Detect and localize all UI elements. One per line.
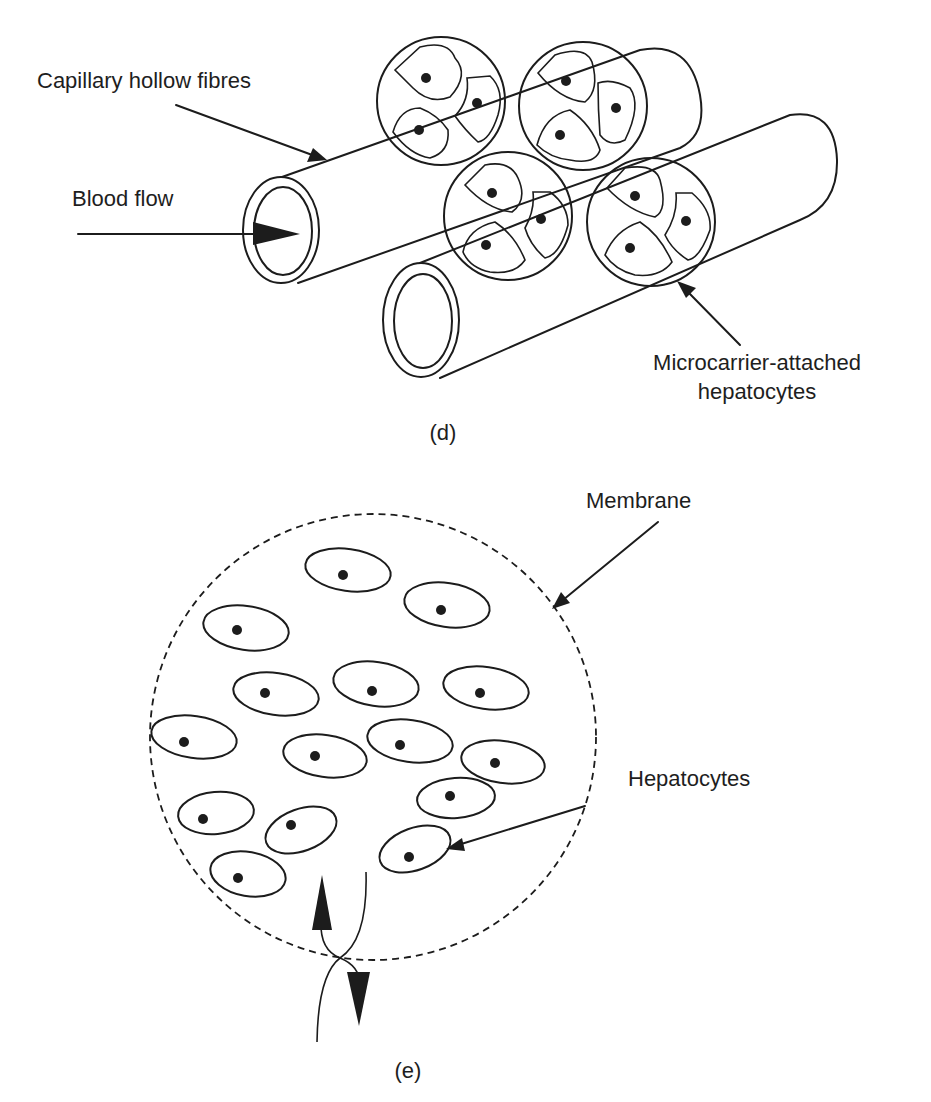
hepatocyte-cells [148,543,547,902]
panel-d-caption: (d) [413,420,473,446]
panel-e-diagram [0,0,931,1102]
hepatocytes-label: Hepatocytes [628,766,750,792]
capillary-label: Capillary hollow fibres [37,68,251,94]
down-exchange-arrow [347,972,370,1026]
panel-e-caption: (e) [378,1058,438,1084]
figure-canvas: Capillary hollow fibres Blood flow Micro… [0,0,931,1102]
membrane-arrow [552,522,658,609]
membrane-boundary [150,514,596,960]
hepatocytes-arrow [446,806,585,851]
blood-flow-label: Blood flow [72,186,174,212]
membrane-label: Membrane [586,488,691,514]
microcarrier-label-line2: hepatocytes [620,379,894,405]
microcarrier-label-line1: Microcarrier-attached [620,350,894,376]
up-exchange-arrow [312,875,332,930]
